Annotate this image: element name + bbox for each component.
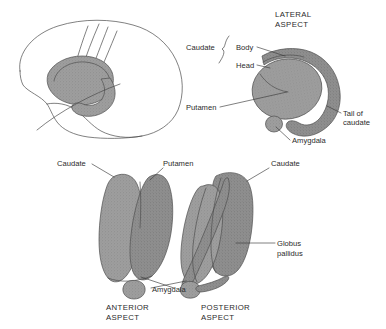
lateral-aspect-panel: LATERAL ASPECT Caudate Body Head Putamen… bbox=[186, 10, 370, 145]
lateral-label-tail-line2: caudate bbox=[343, 118, 370, 127]
lateral-label-head: Head bbox=[236, 61, 254, 70]
sagittal-brain-outline bbox=[20, 20, 183, 138]
anterior-label-putamen: Putamen bbox=[163, 159, 193, 168]
lateral-aspect-heading-line1: LATERAL bbox=[275, 10, 312, 19]
lateral-label-putamen: Putamen bbox=[186, 103, 216, 112]
anterior-aspect-panel: Caudate Putamen ANTERIOR ASPECT bbox=[57, 159, 193, 322]
lateral-label-caudate: Caudate bbox=[186, 43, 215, 52]
anterior-label-caudate: Caudate bbox=[57, 159, 86, 168]
anterior-amygdala bbox=[123, 280, 145, 299]
lateral-label-tail-line1: Tail of bbox=[343, 109, 364, 118]
posterior-label-caudate: Caudate bbox=[271, 159, 300, 168]
posterior-aspect-caption-line2: ASPECT bbox=[201, 313, 234, 322]
lateral-label-amygdala: Amygdala bbox=[292, 136, 327, 145]
anterior-caudate-leader bbox=[92, 164, 114, 177]
posterior-caudate-leader bbox=[247, 168, 269, 181]
anterior-aspect-caption-line1: ANTERIOR bbox=[106, 303, 149, 312]
posterior-label-globus-line2: pallidus bbox=[277, 249, 303, 258]
posterior-label-globus-line1: Globus bbox=[277, 239, 301, 248]
posterior-aspect-caption-line1: POSTERIOR bbox=[201, 303, 250, 312]
lateral-label-body: Body bbox=[236, 43, 254, 52]
anterior-aspect-caption-line2: ASPECT bbox=[106, 313, 139, 322]
lateral-aspect-heading-line2: ASPECT bbox=[275, 20, 308, 29]
lateral-amygdala bbox=[266, 116, 283, 132]
lateral-caudate-brace bbox=[219, 36, 229, 63]
figure-root: LATERAL ASPECT Caudate Body Head Putamen… bbox=[0, 0, 386, 329]
basal-ganglia-figure: LATERAL ASPECT Caudate Body Head Putamen… bbox=[0, 0, 386, 329]
